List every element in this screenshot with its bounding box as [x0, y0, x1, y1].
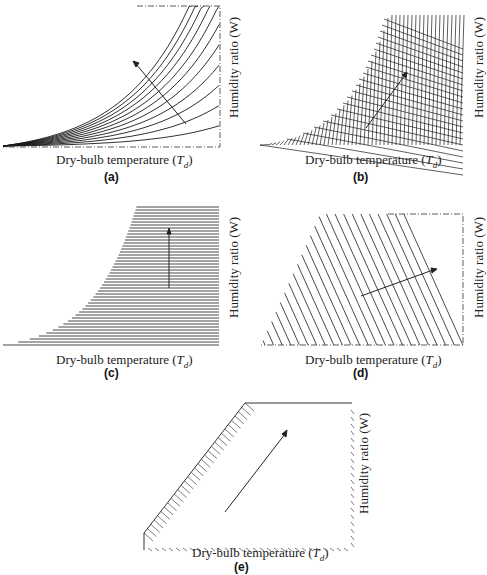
x-axis-label-b: Dry-bulb temperature (Td): [305, 152, 442, 170]
caption-d: (d): [353, 366, 368, 380]
panel-e: Dry-bulb temperature (Td) Humidity ratio…: [100, 390, 390, 575]
x-axis-label-a: Dry-bulb temperature (Td): [56, 152, 193, 170]
arrow-e: [225, 430, 287, 512]
x-axis-label-c: Dry-bulb temperature (Td): [56, 352, 193, 370]
caption-a: (a): [104, 170, 119, 184]
y-axis-label-b: Humidity ratio (W): [471, 17, 487, 118]
y-axis-label-e: Humidity ratio (W): [356, 413, 372, 514]
panel-c: Dry-bulb temperature (Td) Humidity ratio…: [0, 200, 240, 380]
x-axis-label-d: Dry-bulb temperature (Td): [305, 352, 442, 370]
panel-b: Dry-bulb temperature (Td) Humidity ratio…: [245, 0, 485, 190]
caption-c: (c): [104, 366, 119, 380]
y-axis-label-c: Humidity ratio (W): [226, 217, 242, 318]
panel-a: Dry-bulb temperature (Td) Humidity ratio…: [0, 0, 240, 190]
caption-b: (b): [353, 170, 368, 184]
caption-e: (e): [234, 560, 249, 574]
x-axis-label-e: Dry-bulb temperature (Td): [192, 545, 329, 563]
y-axis-label-a: Humidity ratio (W): [226, 17, 242, 118]
panel-d: Dry-bulb temperature (Td) Humidity ratio…: [245, 200, 485, 380]
y-axis-label-d: Humidity ratio (W): [471, 217, 487, 318]
